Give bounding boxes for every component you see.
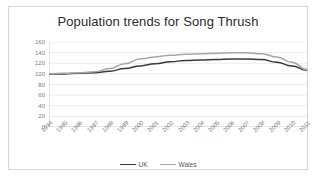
- plot-area: [49, 42, 307, 127]
- y-axis-tick-label: 40: [23, 103, 45, 109]
- y-axis-tick-label: 60: [23, 92, 45, 98]
- legend-entry-wales[interactable]: Wales: [160, 161, 197, 168]
- chart-title: Population trends for Song Thrush: [9, 14, 307, 29]
- legend-swatch-icon: [160, 164, 176, 165]
- y-axis-tick-label: 120: [23, 60, 45, 66]
- legend-swatch-icon: [120, 164, 136, 165]
- legend-label: UK: [139, 161, 148, 168]
- y-axis-tick-label: 160: [23, 39, 45, 45]
- chart-container: Population trends for Song Thrush 020406…: [8, 6, 308, 170]
- legend-label: Wales: [179, 161, 197, 168]
- y-axis-tick-labels: 020406080100120140160: [21, 42, 45, 127]
- x-axis-tick-labels: 1994199519961997199819992000200120022003…: [49, 129, 307, 159]
- chart-screenshot: Population trends for Song Thrush 020406…: [0, 0, 325, 183]
- y-axis-tick-label: 140: [23, 50, 45, 56]
- y-axis-tick-label: 20: [23, 113, 45, 119]
- chart-plot-svg: [49, 42, 307, 127]
- legend-entry-uk[interactable]: UK: [120, 161, 148, 168]
- chart-legend: UKWales: [9, 161, 307, 168]
- y-axis-tick-label: 100: [23, 71, 45, 77]
- y-axis-tick-label: 80: [23, 82, 45, 88]
